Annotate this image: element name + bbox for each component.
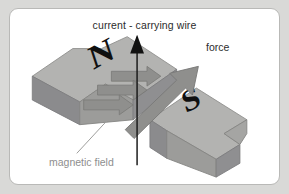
magnetic-field-label: magnetic field [49,157,114,168]
force-label: force [206,42,229,53]
figure-canvas: N S [0,0,289,194]
diagram-panel: N S [9,8,280,185]
wire-label: current - carrying wire [93,20,197,31]
